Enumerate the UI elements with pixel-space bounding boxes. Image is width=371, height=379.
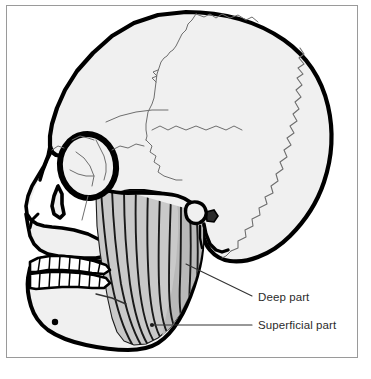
mandibular-condyle xyxy=(186,202,207,224)
label-deep-part: Deep part xyxy=(258,291,309,303)
mental-foramen xyxy=(52,319,58,325)
figure-page: Deep part Superficial part xyxy=(0,0,371,379)
label-superficial-part: Superficial part xyxy=(258,319,336,331)
nasal-aperture xyxy=(52,186,64,218)
nasal-bones xyxy=(40,150,52,180)
leader-dot-superficial xyxy=(150,323,154,327)
